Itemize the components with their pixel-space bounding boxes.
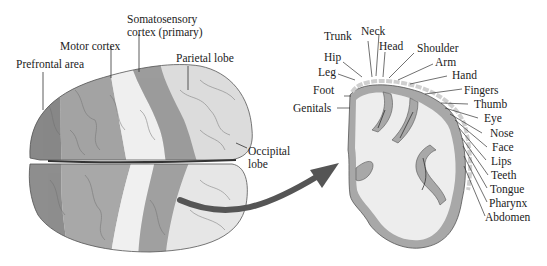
label-trunk: Trunk: [324, 30, 352, 42]
label-motor-cortex: Motor cortex: [60, 40, 120, 52]
label-eye: Eye: [484, 112, 502, 124]
label-foot: Foot: [313, 84, 334, 96]
label-lips: Lips: [491, 155, 511, 167]
somatosensory-diagram: Prefrontal area Motor cortex Somatosenso…: [0, 0, 547, 266]
label-pharynx: Pharynx: [489, 197, 527, 209]
label-tongue: Tongue: [490, 183, 524, 195]
label-somatosensory-line2: cortex (primary): [127, 26, 203, 38]
label-parietal-lobe: Parietal lobe: [176, 52, 234, 64]
label-shoulder: Shoulder: [417, 42, 459, 54]
label-teeth: Teeth: [491, 169, 516, 181]
label-abdomen: Abdomen: [485, 211, 530, 223]
label-prefrontal-area: Prefrontal area: [16, 58, 84, 70]
label-thumb: Thumb: [474, 98, 507, 110]
label-occipital-line1: Occipital: [248, 145, 290, 157]
label-hand: Hand: [452, 69, 477, 81]
coronal-section: [337, 34, 488, 248]
label-genitals: Genitals: [293, 102, 331, 114]
label-occipital-line2: lobe: [248, 158, 268, 170]
label-nose: Nose: [490, 127, 514, 139]
label-face: Face: [492, 141, 514, 153]
label-arm: Arm: [435, 56, 456, 68]
label-leg: Leg: [318, 66, 336, 78]
label-neck: Neck: [361, 25, 385, 37]
label-somatosensory-line1: Somatosensory: [127, 13, 197, 25]
label-fingers: Fingers: [464, 84, 499, 96]
label-head: Head: [379, 40, 403, 52]
label-hip: Hip: [324, 51, 341, 63]
